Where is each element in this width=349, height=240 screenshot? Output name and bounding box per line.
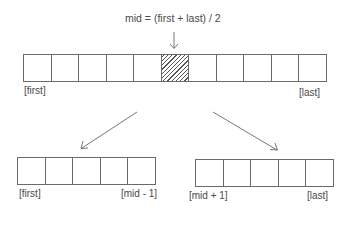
array-cell bbox=[216, 54, 245, 82]
array-cell bbox=[78, 54, 107, 82]
array-cell bbox=[72, 157, 101, 185]
right-last-label: [last] bbox=[307, 190, 328, 201]
array-cell bbox=[17, 157, 46, 185]
array-cell bbox=[298, 54, 327, 82]
array-cell bbox=[195, 159, 224, 187]
array-cell bbox=[45, 157, 74, 185]
top-last-label: [last] bbox=[299, 87, 320, 98]
array-cell bbox=[223, 159, 252, 187]
array-cell bbox=[250, 159, 279, 187]
array-cell bbox=[23, 54, 52, 82]
array-cell bbox=[51, 54, 80, 82]
left-first-label: [first] bbox=[19, 188, 41, 199]
top-array bbox=[23, 54, 327, 82]
array-cell bbox=[188, 54, 217, 82]
array-cell bbox=[127, 157, 156, 185]
top-first-label: [first] bbox=[24, 85, 46, 96]
array-cell bbox=[106, 54, 135, 82]
array-cell bbox=[278, 159, 307, 187]
left-mid-minus-label: [mid - 1] bbox=[121, 188, 157, 199]
array-cell bbox=[100, 157, 129, 185]
array-cell bbox=[133, 54, 162, 82]
mid-cell-highlighted bbox=[161, 54, 190, 82]
left-sub-array bbox=[17, 157, 156, 185]
array-cell bbox=[271, 54, 300, 82]
array-cell bbox=[243, 54, 272, 82]
right-mid-plus-label: [mid + 1] bbox=[189, 190, 228, 201]
right-sub-array bbox=[195, 159, 334, 187]
array-cell bbox=[305, 159, 334, 187]
